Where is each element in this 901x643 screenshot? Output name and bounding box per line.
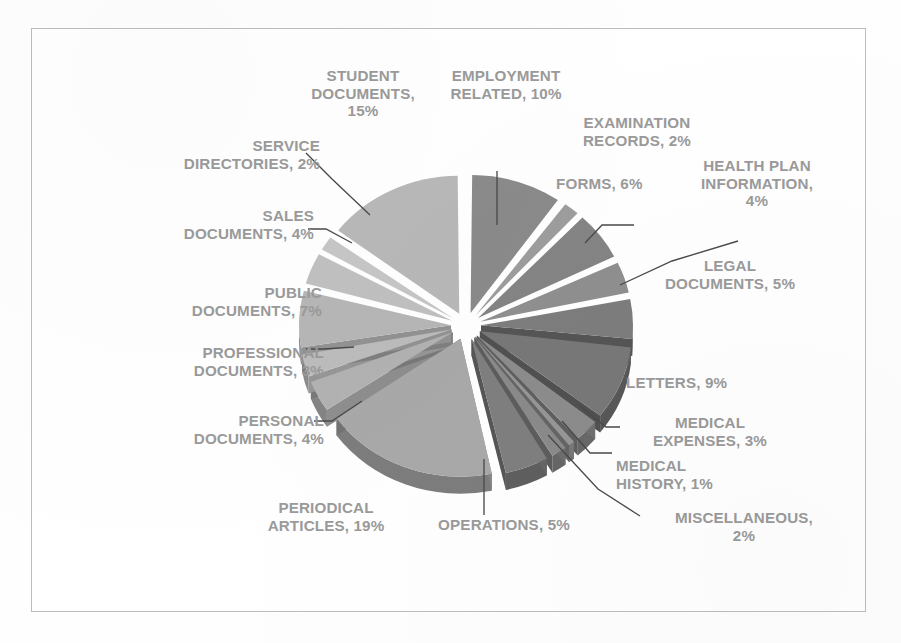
pie-label-public-documents: PUBLIC DOCUMENTS, 7% (90, 284, 322, 319)
pie-label-examination-records: EXAMINATION RECORDS, 2% (544, 114, 730, 149)
pie-label-service-directories: SERVICE DIRECTORIES, 2% (92, 137, 320, 172)
pie-label-medical-expenses: MEDICAL EXPENSES, 3% (612, 414, 808, 449)
pie-slice-tops (299, 175, 633, 477)
pie-label-miscellaneous: MISCELLANEOUS, 2% (638, 509, 850, 544)
pie-label-periodical-articles: PERIODICAL ARTICLES, 19% (230, 499, 422, 534)
pie-label-medical-history: MEDICAL HISTORY, 1% (616, 457, 806, 492)
pie-label-sales-documents: SALES DOCUMENTS, 4% (92, 207, 314, 242)
pie-label-employment-related: EMPLOYMENT RELATED, 10% (416, 67, 596, 102)
pie-label-letters: LETTERS, 9% (626, 374, 816, 392)
pie-label-health-plan-information: HEALTH PLAN INFORMATION, 4% (670, 157, 844, 210)
pie-label-legal-documents: LEGAL DOCUMENTS, 5% (632, 257, 828, 292)
pie-label-professional-documents: PROFESSIONAL DOCUMENTS, 3% (84, 344, 324, 379)
pie-label-personal-documents: PERSONAL DOCUMENTS, 4% (100, 412, 324, 447)
pie-chart: STUDENT DOCUMENTS, 15% EMPLOYMENT RELATE… (32, 29, 865, 611)
pie-label-operations: OPERATIONS, 5% (408, 516, 600, 534)
chart-frame: STUDENT DOCUMENTS, 15% EMPLOYMENT RELATE… (31, 28, 866, 612)
pie-label-forms: FORMS, 6% (556, 175, 676, 193)
screenshot-page: STUDENT DOCUMENTS, 15% EMPLOYMENT RELATE… (0, 0, 901, 643)
